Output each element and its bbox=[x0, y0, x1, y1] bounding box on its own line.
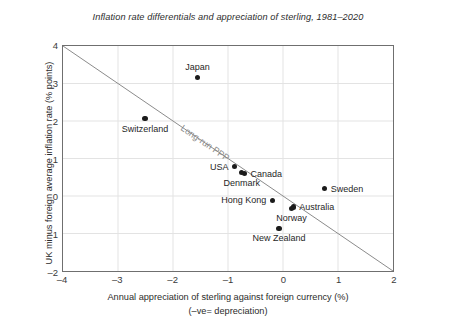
data-point-label: New Zealand bbox=[252, 233, 305, 243]
data-point bbox=[276, 226, 281, 231]
data-point bbox=[195, 75, 200, 80]
data-point-label: USA bbox=[210, 162, 229, 172]
y-axis-tick-label: 0 bbox=[18, 191, 58, 202]
y-axis-tick-label: 3 bbox=[18, 77, 58, 88]
data-point-label: Australia bbox=[299, 202, 334, 212]
chart-figure: Inflation rate differentials and appreci… bbox=[0, 0, 456, 324]
x-axis-tick-label: –4 bbox=[42, 274, 82, 285]
y-axis-tick-label: 2 bbox=[18, 115, 58, 126]
data-point-label: Switzerland bbox=[122, 124, 169, 134]
x-axis-tick-label: 1 bbox=[319, 274, 359, 285]
x-axis-tick-label: 0 bbox=[263, 274, 303, 285]
x-axis-tick-label: –1 bbox=[208, 274, 248, 285]
data-point bbox=[270, 198, 275, 203]
data-point-label: Norway bbox=[276, 213, 307, 223]
data-point-label: Sweden bbox=[331, 184, 364, 194]
x-axis-subtitle: (–ve= depreciation) bbox=[0, 306, 456, 316]
data-point bbox=[142, 116, 147, 121]
chart-title: Inflation rate differentials and appreci… bbox=[0, 12, 456, 22]
y-axis-tick-label: 1 bbox=[18, 153, 58, 164]
data-point-label: Hong Kong bbox=[221, 195, 266, 205]
y-axis-tick-label: –1 bbox=[18, 229, 58, 240]
x-axis-tick-label: 2 bbox=[374, 274, 414, 285]
x-axis-title: Annual appreciation of sterling against … bbox=[0, 292, 456, 302]
data-point-label: Denmark bbox=[224, 178, 261, 188]
data-point-label: Japan bbox=[185, 62, 210, 72]
x-axis-tick-label: –2 bbox=[153, 274, 193, 285]
x-axis-tick-label: –3 bbox=[97, 274, 137, 285]
y-axis-tick-label: 4 bbox=[18, 40, 58, 51]
